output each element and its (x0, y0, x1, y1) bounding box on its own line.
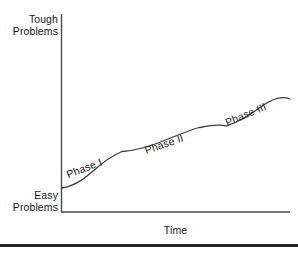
chart-figure: Tough Problems Easy Problems Time Phase … (0, 0, 298, 253)
y-axis-bottom-label: Easy Problems (2, 190, 58, 213)
chart-plot-area (0, 0, 298, 253)
footer-divider (0, 244, 298, 247)
y-axis-top-label: Tough Problems (2, 14, 58, 37)
x-axis-label: Time (61, 224, 290, 236)
